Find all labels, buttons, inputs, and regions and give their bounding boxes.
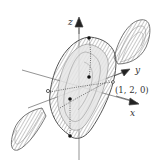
main-body <box>50 37 116 138</box>
dot-upper-mid <box>87 75 91 79</box>
dot-left-open <box>46 89 49 92</box>
x-axis-arrow-icon <box>129 98 139 105</box>
dot-top <box>87 36 91 40</box>
x-axis-label: x <box>130 109 135 118</box>
upper-right-lobe <box>114 20 150 64</box>
y-axis-arrow-icon <box>121 69 130 76</box>
z-axis-arrow-icon <box>75 17 83 27</box>
dot-right-open <box>112 81 115 84</box>
dot-bottom <box>68 134 72 138</box>
z-axis-label: z <box>68 18 73 27</box>
y-axis-label: y <box>135 66 140 75</box>
lower-left-lobe <box>11 108 46 150</box>
dot-lower-mid <box>68 97 72 101</box>
point-label: (1, 2, 0) <box>115 86 149 95</box>
surface-diagram <box>0 0 162 167</box>
